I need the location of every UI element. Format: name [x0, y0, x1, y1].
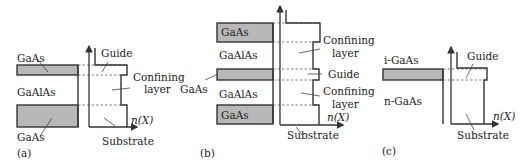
profile-label-guide: Guide [467, 50, 498, 62]
waveguide-diagram: GaAs GaAlAs GaAs Guide Confining layer S… [0, 0, 528, 167]
layer-label: GaAlAs [219, 49, 258, 61]
profile-label-substrate: Substrate [287, 129, 339, 141]
panel-label: (c) [382, 145, 396, 157]
profile-label: layer [144, 83, 172, 95]
layer-label: GaAlAs [17, 86, 56, 98]
panel-label: (a) [17, 147, 31, 159]
layer-label: i-GaAs [384, 54, 419, 66]
axis-label: n(X) [131, 114, 153, 126]
panel-a: GaAs GaAlAs GaAs Guide Confining layer S… [17, 46, 185, 159]
layer-gaas-top [17, 65, 78, 75]
profile-label: Confining [323, 34, 375, 46]
panel-label: (b) [200, 147, 215, 159]
profile-label-substrate: Substrate [457, 129, 509, 141]
layer-label: GaAs [221, 109, 249, 121]
panel-c: i-GaAs n-GaAs Guide Substrate n(X) (c) [382, 47, 515, 157]
profile-label: Confining [323, 85, 375, 97]
layer-label: n-GaAs [384, 95, 422, 107]
profile-label-guide: Guide [328, 68, 359, 80]
layer-label: GaAlAs [219, 88, 258, 100]
layer-label: GaAs [221, 26, 249, 38]
index-profile [457, 52, 487, 124]
axis-label: n(X) [327, 111, 349, 123]
profile-label-substrate: Substrate [102, 135, 154, 147]
layer-label: GaAs [180, 83, 208, 95]
layer-label: GaAs [17, 52, 45, 64]
layer-i-gaas [383, 69, 443, 80]
profile-label-guide: Guide [101, 47, 132, 59]
layer-label: GaAs [17, 131, 45, 143]
profile-label: Confining [133, 71, 185, 83]
index-profile [95, 48, 127, 127]
axis-label: n(X) [493, 110, 515, 122]
profile-label: layer [332, 98, 360, 110]
index-profile [286, 10, 320, 125]
layer-gaas-bottom [17, 105, 78, 127]
panel-b: GaAs GaAlAs GaAs GaAlAs GaAs Confining l… [180, 6, 375, 159]
layer-gaas-middle [217, 69, 273, 80]
profile-label: layer [332, 47, 360, 59]
